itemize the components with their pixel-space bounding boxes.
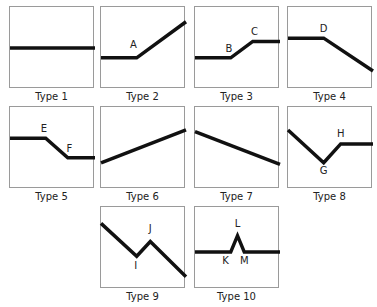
point-label-g: G bbox=[320, 165, 328, 176]
trend-line bbox=[101, 223, 186, 276]
trend-line bbox=[10, 138, 95, 158]
trend-line bbox=[195, 236, 280, 252]
panel-caption: Type 7 bbox=[192, 191, 282, 202]
panel-caption: Type 10 bbox=[192, 291, 282, 302]
point-label-f: F bbox=[67, 143, 73, 154]
panel-plot: IJ bbox=[101, 207, 184, 287]
panel-type-9: IJ bbox=[100, 206, 185, 288]
panel-type-2: A bbox=[100, 6, 185, 88]
panel-plot bbox=[195, 107, 278, 187]
trend-line bbox=[195, 41, 280, 57]
panel-type-5: EF bbox=[9, 106, 94, 188]
panel-plot bbox=[101, 107, 184, 187]
panel-type-10: KLM bbox=[194, 206, 279, 288]
panel-caption: Type 2 bbox=[98, 91, 188, 102]
trend-line bbox=[101, 22, 186, 58]
panel-plot: GH bbox=[288, 107, 371, 187]
point-label-i: I bbox=[134, 260, 137, 271]
panel-caption: Type 5 bbox=[7, 191, 97, 202]
panel-type-4: D bbox=[287, 6, 372, 88]
trend-line bbox=[101, 130, 186, 163]
point-label-h: H bbox=[337, 128, 345, 139]
trend-line bbox=[288, 38, 373, 71]
panel-type-1 bbox=[9, 6, 94, 88]
panel-caption: Type 4 bbox=[285, 91, 375, 102]
panel-type-7 bbox=[194, 106, 279, 188]
point-label-l: L bbox=[235, 218, 241, 229]
point-label-j: J bbox=[148, 223, 152, 234]
panel-plot: BC bbox=[195, 7, 278, 87]
point-label-e: E bbox=[41, 123, 47, 134]
trend-line bbox=[195, 132, 280, 165]
point-label-c: C bbox=[251, 26, 258, 37]
point-label-m: M bbox=[240, 255, 249, 266]
panel-plot: EF bbox=[10, 107, 93, 187]
point-label-b: B bbox=[226, 43, 233, 54]
panel-caption: Type 6 bbox=[98, 191, 188, 202]
panel-type-6 bbox=[100, 106, 185, 188]
point-label-d: D bbox=[320, 23, 328, 34]
panel-type-3: BC bbox=[194, 6, 279, 88]
panel-type-8: GH bbox=[287, 106, 372, 188]
panel-plot: A bbox=[101, 7, 184, 87]
trend-line bbox=[288, 130, 373, 163]
panel-plot: D bbox=[288, 7, 371, 87]
panel-plot: KLM bbox=[195, 207, 278, 287]
panel-plot bbox=[10, 7, 93, 87]
panel-caption: Type 9 bbox=[98, 291, 188, 302]
point-label-k: K bbox=[222, 255, 229, 266]
panel-caption: Type 1 bbox=[7, 91, 97, 102]
panel-caption: Type 8 bbox=[285, 191, 375, 202]
panel-caption: Type 3 bbox=[192, 91, 282, 102]
point-label-a: A bbox=[130, 39, 137, 50]
